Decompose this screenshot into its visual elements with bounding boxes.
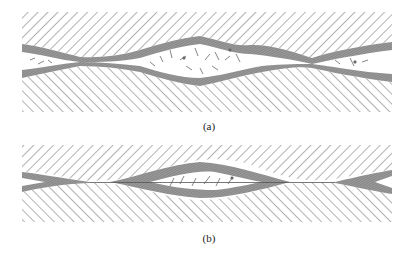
panel-a-label: (a) [189, 120, 229, 132]
upper-rock-hatch [22, 12, 392, 58]
panel-b-label: (b) [189, 232, 229, 244]
panel-a [22, 12, 392, 112]
panel-b [22, 145, 392, 222]
